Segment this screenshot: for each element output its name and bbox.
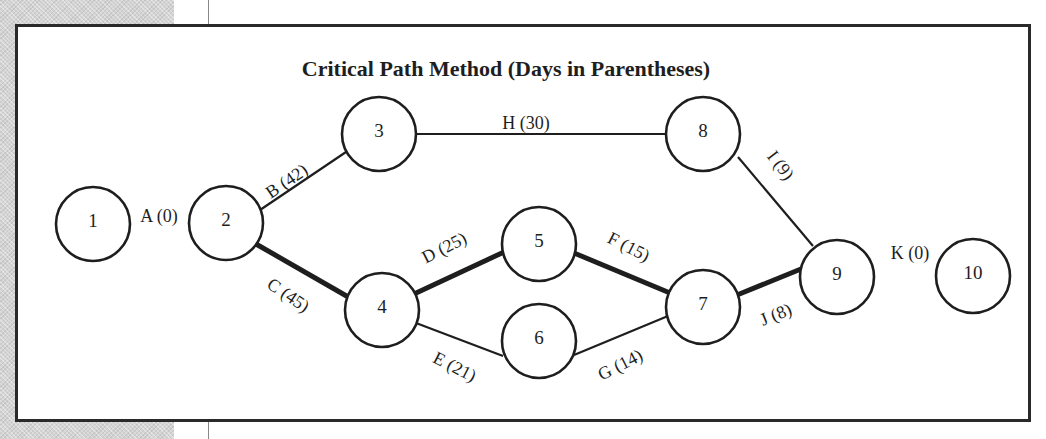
edge-label-j: J (8): [757, 299, 795, 331]
edge-label-b: B (42): [262, 160, 312, 203]
node-6: 6: [502, 304, 576, 378]
node-label: 2: [221, 209, 231, 230]
node-label: 1: [88, 210, 98, 231]
node-4: 4: [345, 273, 419, 347]
node-label: 4: [377, 296, 387, 317]
node-label: 9: [832, 263, 842, 284]
edge-label-k: K (0): [891, 243, 930, 264]
node-label: 8: [698, 120, 708, 141]
edge-label-c: C (45): [263, 274, 313, 317]
node-8: 8: [666, 97, 740, 171]
nodes-layer: 12345678910: [56, 97, 1010, 378]
edge-label-h: H (30): [502, 113, 550, 134]
diagram-title: Critical Path Method (Days in Parenthese…: [302, 56, 710, 81]
cpm-network-diagram: Critical Path Method (Days in Parenthese…: [0, 0, 1046, 439]
node-5: 5: [502, 207, 576, 281]
node-label: 10: [964, 262, 983, 283]
edge-g: [574, 316, 668, 355]
edge-label-a: A (0): [140, 206, 178, 227]
edge-j-critical: [737, 269, 801, 295]
node-10: 10: [936, 239, 1010, 313]
edge-f-critical: [574, 253, 670, 293]
node-label: 5: [534, 230, 544, 251]
node-9: 9: [800, 240, 874, 314]
edge-label-d: D (25): [419, 228, 471, 268]
edge-label-i: I (9): [762, 147, 798, 185]
edge-label-f: F (15): [604, 228, 653, 267]
node-label: 7: [698, 293, 708, 314]
edge-label-e: E (21): [429, 347, 479, 386]
node-3: 3: [342, 97, 416, 171]
node-2: 2: [189, 186, 263, 260]
edge-e: [416, 323, 503, 356]
page: Critical Path Method (Days in Parenthese…: [0, 0, 1046, 439]
node-label: 6: [534, 327, 544, 348]
node-1: 1: [56, 187, 130, 261]
node-7: 7: [666, 270, 740, 344]
edge-label-g: G (14): [595, 345, 647, 385]
node-label: 3: [374, 120, 384, 141]
